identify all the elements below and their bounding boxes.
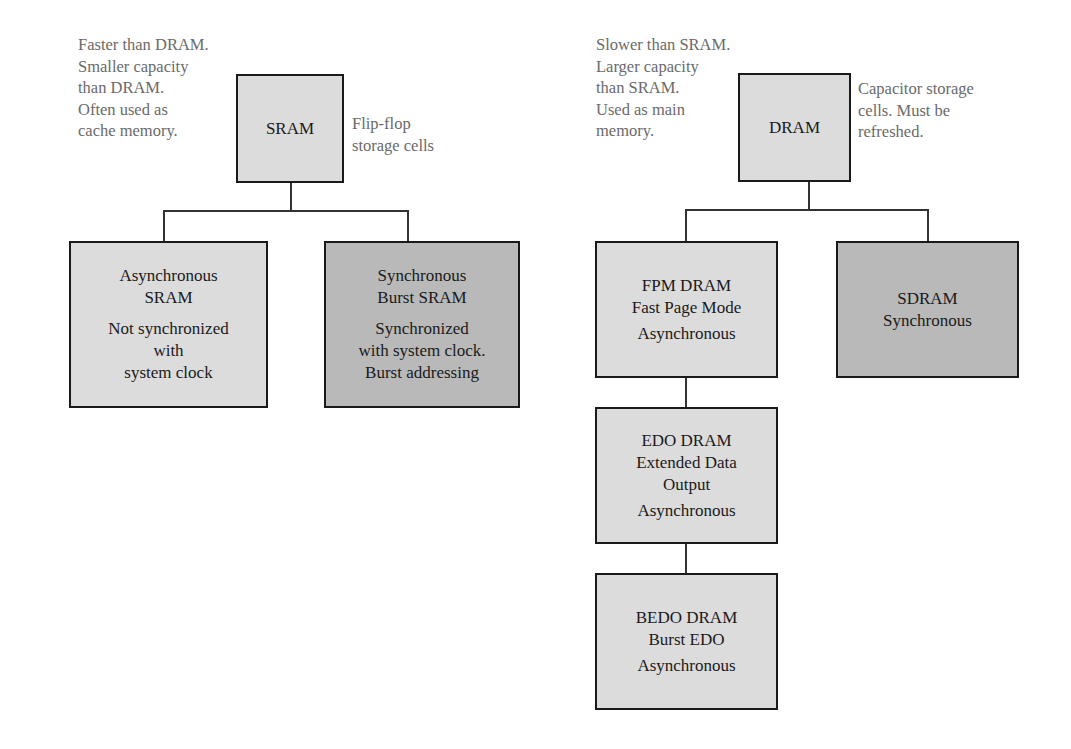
dram-box: DRAM	[738, 73, 851, 182]
connector	[685, 544, 687, 573]
connector	[808, 182, 810, 209]
sram-right-note: Flip-flop storage cells	[352, 113, 434, 156]
sdram-desc: Synchronous	[883, 310, 972, 332]
async-sram-desc: Not synchronized with system clock	[108, 318, 228, 384]
dram-left-note: Slower than SRAM. Larger capacity than S…	[596, 34, 730, 142]
async-sram-name: Asynchronous SRAM	[119, 265, 217, 309]
edo-dram-desc: Asynchronous	[637, 500, 735, 522]
edo-dram-name: EDO DRAM Extended Data Output	[636, 430, 737, 496]
fpm-dram-name: FPM DRAM Fast Page Mode	[632, 275, 742, 319]
connector	[290, 183, 292, 210]
fpm-dram-box: FPM DRAM Fast Page Mode Asynchronous	[595, 241, 778, 378]
connector	[927, 209, 929, 241]
sync-burst-sram-desc: Synchronized with system clock. Burst ad…	[358, 318, 485, 384]
connector	[163, 210, 408, 212]
async-sram-box: Asynchronous SRAM Not synchronized with …	[69, 241, 268, 408]
connector	[163, 210, 165, 241]
connector	[407, 210, 409, 241]
connector	[685, 209, 928, 211]
connector	[685, 378, 687, 407]
fpm-dram-desc: Asynchronous	[637, 323, 735, 345]
sdram-box: SDRAM Synchronous	[836, 241, 1019, 378]
edo-dram-box: EDO DRAM Extended Data Output Asynchrono…	[595, 407, 778, 544]
sram-box: SRAM	[236, 74, 344, 183]
bedo-dram-name: BEDO DRAM Burst EDO	[636, 607, 738, 651]
bedo-dram-desc: Asynchronous	[637, 655, 735, 677]
sync-burst-sram-name: Synchronous Burst SRAM	[377, 265, 466, 309]
bedo-dram-box: BEDO DRAM Burst EDO Asynchronous	[595, 573, 778, 710]
sdram-name: SDRAM	[897, 288, 957, 310]
sync-burst-sram-box: Synchronous Burst SRAM Synchronized with…	[324, 241, 520, 408]
dram-right-note: Capacitor storage cells. Must be refresh…	[858, 78, 974, 143]
dram-title: DRAM	[769, 117, 820, 139]
sram-title: SRAM	[266, 118, 314, 140]
connector	[685, 209, 687, 241]
sram-left-note: Faster than DRAM. Smaller capacity than …	[78, 34, 209, 142]
